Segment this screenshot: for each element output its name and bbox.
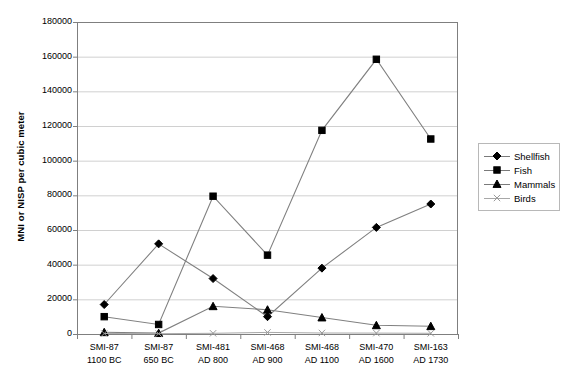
y-axis-tick-label: 120000 [20,120,72,130]
y-axis-tick-label: 180000 [20,16,72,26]
legend-label: Mammals [510,179,555,190]
x-axis-category-label: SMI-468AD 1100 [295,341,349,367]
legend-item-mammals[interactable]: Mammals [484,177,552,191]
x-category-site: SMI-470 [349,341,403,354]
legend-item-birds[interactable]: Birds [484,191,552,205]
x-axis-category-label: SMI-163AD 1730 [404,341,458,367]
x-category-site: SMI-87 [77,341,131,354]
marker-square [373,56,379,62]
x-category-date: AD 1600 [349,354,403,367]
legend-key-diamond-icon [484,150,510,162]
legend-marker-icon [484,192,510,204]
marker-diamond [493,152,501,160]
legend-key-square-icon [484,164,510,176]
x-category-site: SMI-481 [186,341,240,354]
chart-container: MNI or NISP per cubic meter 020000400006… [0,0,565,379]
x-axis-category-label: SMI-87650 BC [131,341,185,367]
marker-square [155,321,161,327]
marker-square [494,167,500,173]
marker-square [428,136,434,142]
legend-label: Fish [510,165,532,176]
legend-marker-icon [484,178,510,190]
y-axis-tick-label: 60000 [20,224,72,234]
x-category-date: AD 900 [240,354,294,367]
x-axis-category-label: SMI-481AD 800 [186,341,240,367]
y-axis-tick-label: 160000 [20,51,72,61]
x-category-date: 1100 BC [77,354,131,367]
x-category-site: SMI-468 [240,341,294,354]
marker-square [210,193,216,199]
legend-label: Shellfish [510,151,550,162]
marker-triangle [493,180,501,187]
legend-key-triangle-icon [484,178,510,190]
marker-square [264,252,270,258]
x-category-site: SMI-468 [295,341,349,354]
x-category-date: AD 800 [186,354,240,367]
legend-item-fish[interactable]: Fish [484,163,552,177]
legend-item-shellfish[interactable]: Shellfish [484,149,552,163]
x-category-date: AD 1100 [295,354,349,367]
marker-square [101,313,107,319]
chart-legend: ShellfishFishMammalsBirds [478,143,560,211]
legend-marker-icon [484,164,510,176]
x-category-site: SMI-87 [131,341,185,354]
marker-square [319,127,325,133]
y-axis-tick-label: 40000 [20,259,72,269]
x-category-date: 650 BC [131,354,185,367]
x-axis-category-label: SMI-470AD 1600 [349,341,403,367]
y-axis-tick-label: 0 [20,328,72,338]
legend-key-cross-icon [484,192,510,204]
x-category-site: SMI-163 [404,341,458,354]
x-axis-category-label: SMI-468AD 900 [240,341,294,367]
plot-background [77,22,458,334]
legend-marker-icon [484,150,510,162]
y-axis-tick-label: 100000 [20,155,72,165]
legend-label: Birds [510,193,536,204]
y-axis-tick-label: 20000 [20,293,72,303]
x-axis-category-label: SMI-871100 BC [77,341,131,367]
y-axis-tick-label: 140000 [20,85,72,95]
y-axis-tick-label: 80000 [20,189,72,199]
x-category-date: AD 1730 [404,354,458,367]
